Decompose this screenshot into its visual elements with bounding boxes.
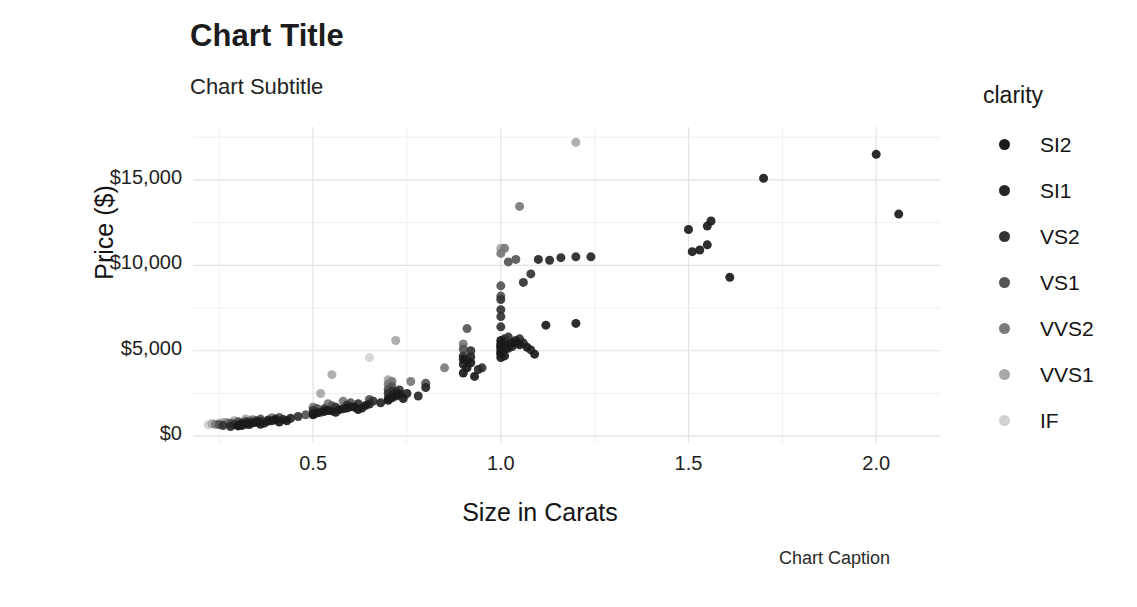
major-gridlines bbox=[193, 127, 940, 443]
legend-marker-icon bbox=[999, 415, 1010, 426]
legend-item-si2[interactable]: SI2 bbox=[966, 131, 1131, 158]
chart-root: Chart Title Chart Subtitle $0$5,000$10,0… bbox=[0, 0, 1137, 607]
legend-item-label: VVS1 bbox=[1040, 363, 1094, 387]
minor-gridlines bbox=[193, 127, 940, 443]
x-tick-label: 2.0 bbox=[836, 452, 916, 475]
legend-items: SI2SI1VS2VS1VVS2VVS1IF bbox=[966, 131, 1131, 434]
scatter-plot-svg bbox=[193, 127, 940, 443]
chart-title: Chart Title bbox=[190, 18, 344, 54]
series-si2 bbox=[234, 150, 904, 431]
legend-marker-icon bbox=[999, 277, 1010, 288]
x-tick-label: 0.5 bbox=[273, 452, 353, 475]
series-vs2 bbox=[219, 269, 536, 430]
legend-item-label: VS2 bbox=[1040, 225, 1080, 249]
y-axis-title: Price ($) bbox=[90, 118, 119, 348]
legend-item-label: IF bbox=[1040, 409, 1059, 433]
chart-subtitle: Chart Subtitle bbox=[190, 74, 323, 100]
legend-item-label: VS1 bbox=[1040, 271, 1080, 295]
legend-item-label: VVS2 bbox=[1040, 317, 1094, 341]
legend: clarity SI2SI1VS2VS1VVS2VVS1IF bbox=[966, 82, 1131, 453]
x-tick-label: 1.0 bbox=[461, 452, 541, 475]
legend-item-vs1[interactable]: VS1 bbox=[966, 269, 1131, 296]
legend-title: clarity bbox=[983, 82, 1131, 109]
legend-marker-icon bbox=[999, 139, 1010, 150]
legend-item-vvs1[interactable]: VVS1 bbox=[966, 361, 1131, 388]
legend-marker-icon bbox=[999, 369, 1010, 380]
legend-item-label: SI2 bbox=[1040, 133, 1072, 157]
x-axis-title: Size in Carats bbox=[330, 498, 750, 527]
legend-item-if[interactable]: IF bbox=[966, 407, 1131, 434]
legend-item-si1[interactable]: SI1 bbox=[966, 177, 1131, 204]
legend-marker-icon bbox=[999, 231, 1010, 242]
legend-item-label: SI1 bbox=[1040, 179, 1072, 203]
legend-marker-icon bbox=[999, 185, 1010, 196]
legend-marker-icon bbox=[999, 323, 1010, 334]
y-tick-label: $0 bbox=[22, 422, 182, 445]
legend-item-vs2[interactable]: VS2 bbox=[966, 223, 1131, 250]
x-tick-label: 1.5 bbox=[648, 452, 728, 475]
series-si1 bbox=[226, 252, 595, 431]
series-vvs2 bbox=[211, 202, 524, 429]
plot-area bbox=[193, 127, 940, 443]
chart-caption: Chart Caption bbox=[779, 548, 890, 569]
legend-item-vvs2[interactable]: VVS2 bbox=[966, 315, 1131, 342]
